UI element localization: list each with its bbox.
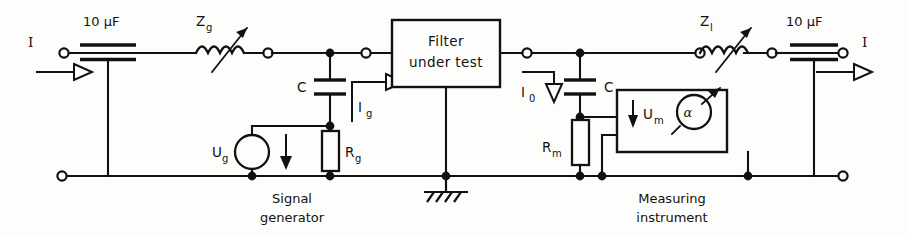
output-terminal-top xyxy=(838,48,847,57)
resistor-rm xyxy=(572,120,589,176)
label-rg-sub: g xyxy=(355,153,361,164)
label-cg: C xyxy=(297,79,306,95)
label-zl: Z xyxy=(700,13,709,29)
label-meter-alpha: α xyxy=(684,105,693,120)
feedthrough-capacitor-output xyxy=(790,45,838,176)
circuit-diagram-canvas: I I 10 µF 10 µF Z g Z l C C I g I 0 U g … xyxy=(0,0,908,235)
node-rg-bottom xyxy=(326,172,335,181)
label-ug-sub: g xyxy=(222,153,228,164)
label-filter-line2: under test xyxy=(409,54,483,70)
label-zl-sub: l xyxy=(710,22,713,33)
label-rm: R xyxy=(542,139,551,155)
label-io-sub: 0 xyxy=(529,93,535,104)
label-ig: I xyxy=(358,99,362,115)
label-ig-sub: g xyxy=(366,108,372,119)
label-ug: U xyxy=(212,144,222,160)
label-um: U xyxy=(643,106,653,122)
label-meas-line2: instrument xyxy=(636,210,707,225)
label-siggen-line1: Signal xyxy=(272,191,312,206)
capacitor-cg xyxy=(314,80,346,94)
variable-inductor-zl xyxy=(700,28,751,72)
node-meas-lower-lead xyxy=(598,172,607,181)
input-current-arrow xyxy=(36,64,92,80)
output-terminal-bottom xyxy=(838,171,847,180)
ug-polarity-arrow xyxy=(280,134,292,170)
resistor-rg xyxy=(322,131,339,176)
label-cm: C xyxy=(604,79,613,95)
output-current-arrow xyxy=(816,64,872,80)
label-zg-sub: g xyxy=(206,22,212,33)
schematic-svg: I I 10 µF 10 µF Z g Z l C C I g I 0 U g … xyxy=(0,0,908,235)
chassis-ground-icon xyxy=(424,176,468,202)
label-port-out: I xyxy=(862,34,867,50)
input-terminal-top xyxy=(59,48,68,57)
label-meas-line1: Measuring xyxy=(638,191,706,206)
terminal-filter-input xyxy=(361,48,370,57)
wire-meas-lower-lead xyxy=(602,135,617,176)
label-io: I xyxy=(521,84,525,100)
label-filter-line1: Filter xyxy=(428,33,464,49)
current-arrow-io xyxy=(522,72,562,102)
feedthrough-capacitor-input xyxy=(80,45,136,176)
label-cap-out: 10 µF xyxy=(786,14,822,29)
label-rg: R xyxy=(345,144,354,160)
node-ug-bottom xyxy=(248,172,257,181)
terminal-filter-output xyxy=(522,48,531,57)
input-terminal-bottom xyxy=(57,171,66,180)
variable-inductor-zg xyxy=(196,28,247,72)
label-siggen-line2: generator xyxy=(260,210,325,225)
label-cap-in: 10 µF xyxy=(83,14,119,29)
voltage-source-ug xyxy=(235,135,269,169)
node-rm-bottom xyxy=(576,172,585,181)
label-um-sub: m xyxy=(654,115,664,126)
label-port-in: I xyxy=(28,34,33,50)
label-rm-sub: m xyxy=(552,148,562,159)
capacitor-cm xyxy=(564,80,596,94)
label-zg: Z xyxy=(196,13,205,29)
